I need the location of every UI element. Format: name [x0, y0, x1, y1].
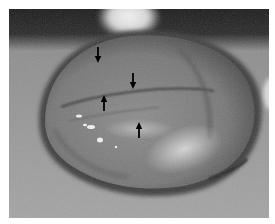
clinical-photograph: Large translucent membranous sac with bl… [9, 9, 269, 218]
photo-canvas [9, 9, 269, 218]
